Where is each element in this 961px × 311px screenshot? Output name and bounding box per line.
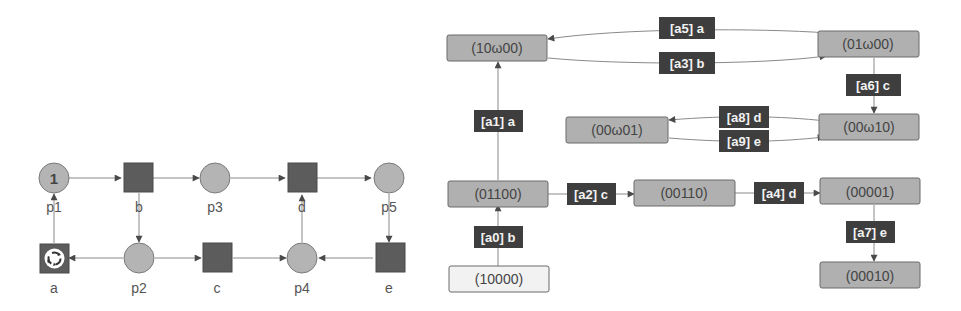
svg-text:(10ω00): (10ω00) xyxy=(471,40,522,56)
svg-text:[a7] e: [a7] e xyxy=(853,225,887,240)
svg-text:(00010): (00010) xyxy=(846,268,894,284)
transition-label: c xyxy=(214,280,221,296)
svg-text:[a9] e: [a9] e xyxy=(727,134,761,149)
svg-text:(00001): (00001) xyxy=(846,184,894,200)
edge-label-a5: [a5] a xyxy=(659,17,715,39)
coverability-graph: (10ω00) (01ω00) (00ω01) (00ω10) (01100) … xyxy=(447,17,920,292)
svg-text:[a4] d: [a4] d xyxy=(762,186,797,201)
svg-text:(00ω10): (00ω10) xyxy=(843,119,894,135)
svg-text:[a0] b: [a0] b xyxy=(481,230,516,245)
svg-text:(00110): (00110) xyxy=(660,185,707,201)
place-label: p1 xyxy=(46,199,62,215)
place-label: p2 xyxy=(131,280,147,296)
place-label: p3 xyxy=(207,199,223,215)
refresh-cycle-icon xyxy=(45,249,65,269)
svg-text:[a5] a: [a5] a xyxy=(670,21,705,36)
edge-label-a0: [a0] b xyxy=(474,226,523,248)
initial-state-node[interactable]: (10000) xyxy=(449,266,549,292)
edge-label-a8: [a8] d xyxy=(719,106,769,128)
token-count: 1 xyxy=(50,170,58,187)
state-node[interactable]: (01100) xyxy=(448,181,548,207)
edge-label-a9: [a9] e xyxy=(719,130,769,152)
transition-c[interactable]: c xyxy=(203,243,232,296)
state-node[interactable]: (10ω00) xyxy=(447,35,547,61)
place-label: p4 xyxy=(294,280,310,296)
transition-label: d xyxy=(298,199,306,215)
svg-text:(10000): (10000) xyxy=(475,271,523,287)
transition-b[interactable]: b xyxy=(124,163,153,215)
place-p4[interactable]: p4 xyxy=(287,243,317,296)
place-p5[interactable]: p5 xyxy=(374,163,404,215)
svg-text:(01100): (01100) xyxy=(474,186,521,202)
svg-text:[a2] c: [a2] c xyxy=(574,187,608,202)
svg-text:[a1] a: [a1] a xyxy=(481,114,516,129)
state-node[interactable]: (00010) xyxy=(820,262,920,288)
svg-text:[a3] b: [a3] b xyxy=(670,56,705,71)
edge-label-a7: [a7] e xyxy=(846,221,895,243)
petri-net: 1 p1 p3 p5 p2 p4 b d xyxy=(39,163,405,296)
svg-text:[a8] d: [a8] d xyxy=(727,110,762,125)
place-label: p5 xyxy=(381,199,397,215)
state-node[interactable]: (00ω01) xyxy=(566,117,668,143)
transition-d[interactable]: d xyxy=(288,163,317,215)
edge-label-a6: [a6] c xyxy=(846,74,901,96)
transition-label: b xyxy=(135,199,143,215)
diagram-canvas: 1 p1 p3 p5 p2 p4 b d xyxy=(0,0,961,311)
svg-text:(00ω01): (00ω01) xyxy=(591,122,642,138)
transition-label: e xyxy=(385,280,393,296)
state-node[interactable]: (01ω00) xyxy=(818,31,919,57)
state-node[interactable]: (00001) xyxy=(820,178,920,204)
place-p3[interactable]: p3 xyxy=(200,163,230,215)
edge-label-a2: [a2] c xyxy=(567,183,616,205)
place-p2[interactable]: p2 xyxy=(124,243,154,296)
state-node[interactable]: (00ω10) xyxy=(819,114,919,140)
edge-label-a1: [a1] a xyxy=(474,110,523,132)
state-node[interactable]: (00110) xyxy=(634,180,735,206)
transition-label: a xyxy=(50,280,58,296)
edge-label-a3: [a3] b xyxy=(659,52,715,74)
edge-label-a4: [a4] d xyxy=(754,182,804,204)
svg-text:(01ω00): (01ω00) xyxy=(842,36,893,52)
place-p1[interactable]: 1 p1 xyxy=(39,163,69,215)
svg-text:[a6] c: [a6] c xyxy=(856,78,890,93)
transition-a[interactable]: a xyxy=(40,244,69,296)
transition-e[interactable]: e xyxy=(376,243,405,296)
